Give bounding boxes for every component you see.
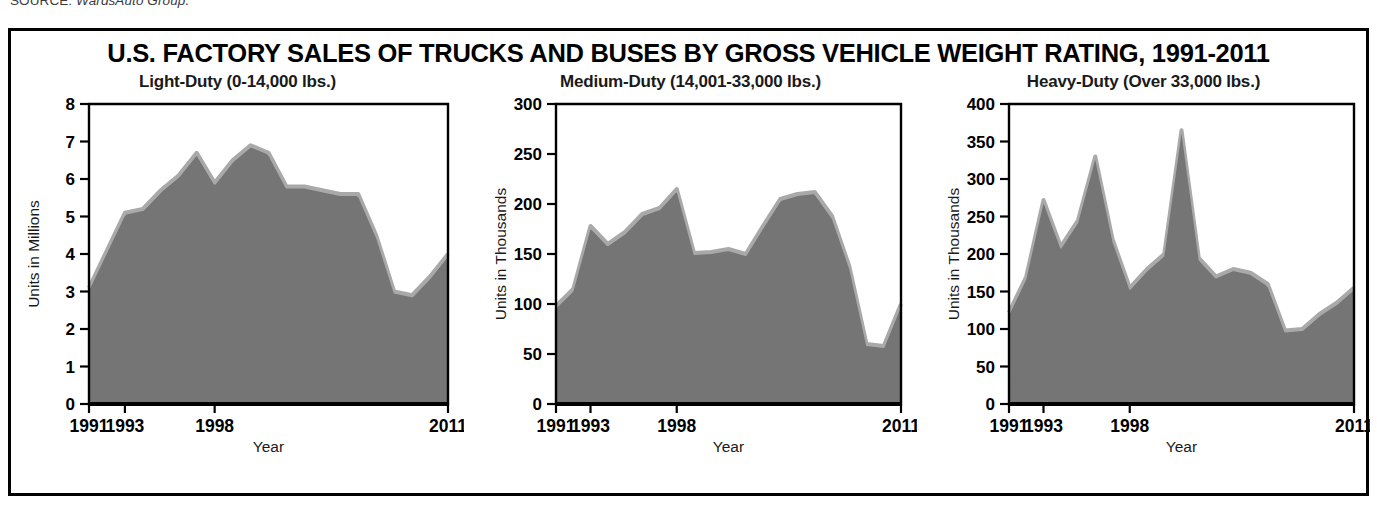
chart-panel-heavy-duty: Heavy-Duty (Over 33,000 lbs.) 0501001502… — [917, 72, 1370, 459]
y-axis-tick-label: 1 — [66, 358, 75, 377]
panel-plot-medium-duty: 0501001502002503001991199319982011Units … — [464, 94, 917, 459]
y-axis-tick-label: 6 — [66, 170, 75, 189]
y-axis-tick-label: 50 — [523, 345, 542, 364]
area-fill-inner — [89, 148, 448, 404]
source-name: WardsAuto Group. — [76, 0, 189, 8]
panel-plot-heavy-duty: 0501001502002503003504001991199319982011… — [917, 94, 1370, 459]
area-chart-light-duty[interactable]: 0123456781991199319982011Units in Millio… — [11, 94, 464, 459]
area-fill-inner — [556, 192, 901, 404]
x-axis-title: Year — [713, 438, 744, 455]
y-axis-tick-label: 150 — [514, 245, 542, 264]
y-axis-tick-label: 4 — [66, 245, 76, 264]
area-chart-medium-duty[interactable]: 0501001502002503001991199319982011Units … — [464, 94, 917, 459]
y-axis-tick-label: 5 — [66, 208, 75, 227]
chart-panel-light-duty: Light-Duty (0-14,000 lbs.) 0123456781991… — [11, 72, 464, 459]
x-axis-title: Year — [253, 438, 284, 455]
source-label: SOURCE: — [10, 0, 72, 8]
y-axis-tick-label: 100 — [514, 295, 542, 314]
y-axis-tick-label: 350 — [967, 133, 995, 152]
x-axis-tick-label: 1993 — [571, 416, 610, 436]
x-axis-tick-label: 1998 — [657, 416, 696, 436]
chart-panel-row: Light-Duty (0-14,000 lbs.) 0123456781991… — [11, 72, 1366, 459]
y-axis-tick-label: 300 — [514, 95, 542, 114]
y-axis-tick-label: 0 — [986, 395, 995, 414]
y-axis-tick-label: 0 — [66, 395, 75, 414]
area-series — [1009, 130, 1354, 404]
page-title: U.S. FACTORY SALES OF TRUCKS AND BUSES B… — [11, 39, 1366, 68]
x-axis-title: Year — [1166, 438, 1197, 455]
area-series — [89, 145, 448, 404]
y-axis-title: Units in Thousands — [492, 188, 509, 321]
area-chart-heavy-duty[interactable]: 0501001502002503003504001991199319982011… — [917, 94, 1370, 459]
x-axis-tick-label: 2011 — [1335, 416, 1370, 436]
x-axis-tick-label: 1991 — [990, 416, 1029, 436]
y-axis-tick-label: 7 — [66, 133, 75, 152]
source-caption: SOURCE: WardsAuto Group. — [10, 0, 189, 8]
x-axis-tick-label: 1998 — [1110, 416, 1149, 436]
panel-plot-light-duty: 0123456781991199319982011Units in Millio… — [11, 94, 464, 459]
x-axis-tick-label: 2011 — [882, 416, 917, 436]
y-axis-tick-label: 250 — [514, 145, 542, 164]
y-axis-tick-label: 150 — [967, 283, 995, 302]
y-axis-tick-label: 100 — [967, 320, 995, 339]
y-axis-tick-label: 300 — [967, 170, 995, 189]
chart-panel-medium-duty: Medium-Duty (14,001-33,000 lbs.) 0501001… — [464, 72, 917, 459]
x-axis-tick-label: 2011 — [429, 416, 464, 436]
area-fill-inner — [1009, 133, 1354, 404]
y-axis-tick-label: 0 — [533, 395, 542, 414]
x-axis-tick-label: 1991 — [70, 416, 109, 436]
y-axis-tick-label: 2 — [66, 320, 75, 339]
y-axis-title: Units in Millions — [25, 200, 42, 308]
x-axis-tick-label: 1998 — [195, 416, 234, 436]
panel-title-light-duty: Light-Duty (0-14,000 lbs.) — [11, 72, 464, 92]
x-axis-tick-label: 1993 — [1024, 416, 1063, 436]
y-axis-tick-label: 400 — [967, 95, 995, 114]
y-axis-tick-label: 250 — [967, 208, 995, 227]
figure-frame: U.S. FACTORY SALES OF TRUCKS AND BUSES B… — [8, 28, 1369, 496]
y-axis-title: Units in Thousands — [945, 188, 962, 321]
panel-title-heavy-duty: Heavy-Duty (Over 33,000 lbs.) — [917, 72, 1370, 92]
y-axis-tick-label: 3 — [66, 283, 75, 302]
y-axis-tick-label: 50 — [976, 358, 995, 377]
area-series — [556, 189, 901, 404]
y-axis-tick-label: 200 — [967, 245, 995, 264]
x-axis-tick-label: 1991 — [537, 416, 576, 436]
y-axis-tick-label: 200 — [514, 195, 542, 214]
y-axis-tick-label: 8 — [66, 95, 75, 114]
x-axis-tick-label: 1993 — [105, 416, 144, 436]
panel-title-medium-duty: Medium-Duty (14,001-33,000 lbs.) — [464, 72, 917, 92]
